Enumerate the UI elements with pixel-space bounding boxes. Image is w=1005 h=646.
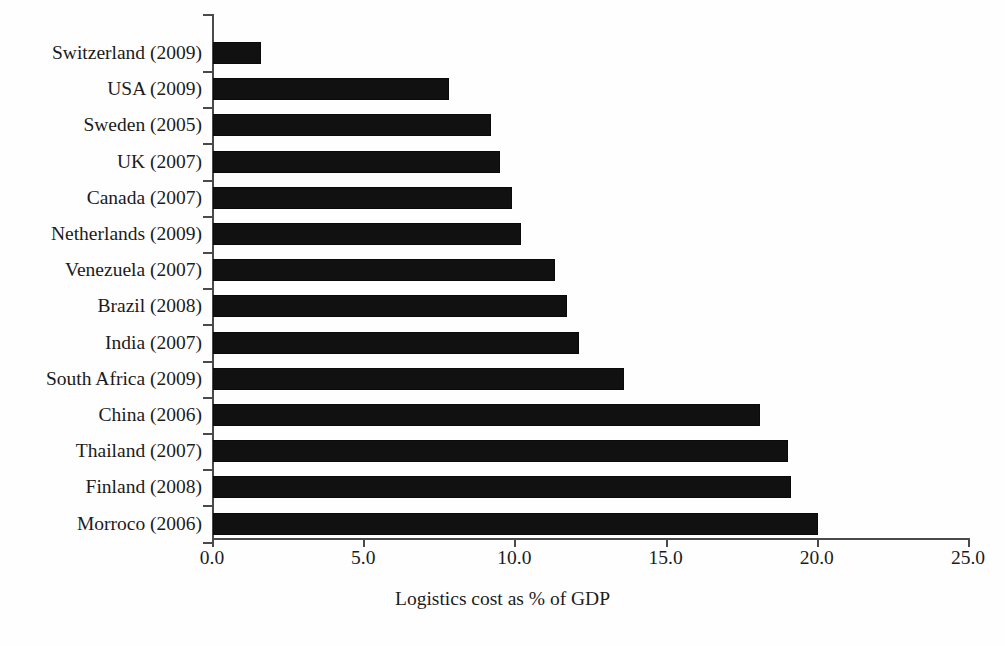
x-tick-label: 15.0 — [649, 547, 683, 569]
category-label: Thailand (2007) — [76, 440, 202, 462]
category-label: Sweden (2005) — [83, 114, 202, 136]
y-axis-tick — [203, 143, 212, 145]
bar — [213, 440, 788, 462]
y-axis-tick — [203, 288, 212, 290]
y-axis-tick — [203, 324, 212, 326]
bar — [213, 332, 579, 354]
x-tick-label: 10.0 — [497, 547, 531, 569]
x-axis-tick — [212, 538, 214, 547]
y-axis-tick-top — [203, 14, 212, 16]
y-axis-tick — [203, 216, 212, 218]
y-axis-tick — [203, 542, 212, 544]
bar — [213, 259, 555, 281]
category-label: China (2006) — [99, 404, 202, 426]
y-axis-tick — [203, 433, 212, 435]
y-axis-tick — [203, 505, 212, 507]
y-axis-tick — [203, 397, 212, 399]
bar — [213, 42, 261, 64]
category-label: USA (2009) — [107, 78, 202, 100]
x-axis-tick — [514, 538, 516, 547]
bar — [213, 404, 760, 426]
category-label: India (2007) — [105, 332, 202, 354]
chart-page: Switzerland (2009)USA (2009)Sweden (2005… — [0, 0, 1005, 646]
bar — [213, 187, 512, 209]
x-axis-tick — [968, 538, 970, 547]
category-label: South Africa (2009) — [46, 368, 202, 390]
category-label: Morroco (2006) — [77, 513, 202, 535]
x-tick-label: 25.0 — [951, 547, 985, 569]
category-label: Switzerland (2009) — [52, 42, 202, 64]
x-axis-tick — [817, 538, 819, 547]
y-axis-tick — [203, 252, 212, 254]
category-label: Canada (2007) — [87, 187, 202, 209]
category-label: UK (2007) — [117, 151, 202, 173]
bar — [213, 476, 791, 498]
category-label: Finland (2008) — [86, 476, 202, 498]
bar — [213, 151, 500, 173]
x-axis-tick — [363, 538, 365, 547]
bar — [213, 368, 624, 390]
y-axis-tick — [203, 361, 212, 363]
x-tick-label: 20.0 — [800, 547, 834, 569]
y-axis-tick — [203, 469, 212, 471]
bar — [213, 223, 521, 245]
category-label: Netherlands (2009) — [51, 223, 202, 245]
bar — [213, 295, 567, 317]
x-axis-line — [212, 538, 969, 540]
x-tick-label: 0.0 — [200, 547, 224, 569]
category-label: Brazil (2008) — [97, 295, 202, 317]
bar — [213, 513, 818, 535]
y-axis-tick — [203, 180, 212, 182]
y-axis-tick — [203, 71, 212, 73]
x-axis-title: Logistics cost as % of GDP — [0, 588, 1005, 610]
x-tick-label: 5.0 — [351, 547, 375, 569]
y-axis-tick — [203, 107, 212, 109]
x-axis-tick — [666, 538, 668, 547]
bar — [213, 114, 491, 136]
category-label: Venezuela (2007) — [65, 259, 202, 281]
bar — [213, 78, 449, 100]
